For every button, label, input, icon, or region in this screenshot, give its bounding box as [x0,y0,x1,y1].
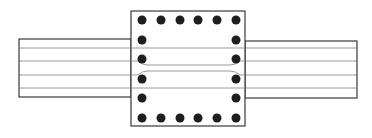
rebar-dot [138,94,147,103]
rebar-dot [138,114,147,123]
rebar-dot [138,16,147,25]
rebar-dot [232,94,241,103]
rebar-dot [232,114,241,123]
rebar-dot [176,114,185,123]
rebar-dot [232,55,241,64]
rebar-dot [232,16,241,25]
column-beam-joint-diagram [0,0,372,138]
rebar-dot [194,114,203,123]
rebar-dot [213,114,222,123]
rebar-dot [138,55,147,64]
rebar-dot [157,16,166,25]
column-outline [131,11,245,126]
diagram-canvas [0,0,372,138]
rebar-dot [157,114,166,123]
rebar-dot [213,16,222,25]
right-beam-outline [245,41,357,98]
rebar-dot [194,16,203,25]
rebar-dot [138,75,147,84]
rebar-dot [232,75,241,84]
rebar-dot [176,16,185,25]
rebar-dot [232,36,241,45]
rebar-dot [138,36,147,45]
